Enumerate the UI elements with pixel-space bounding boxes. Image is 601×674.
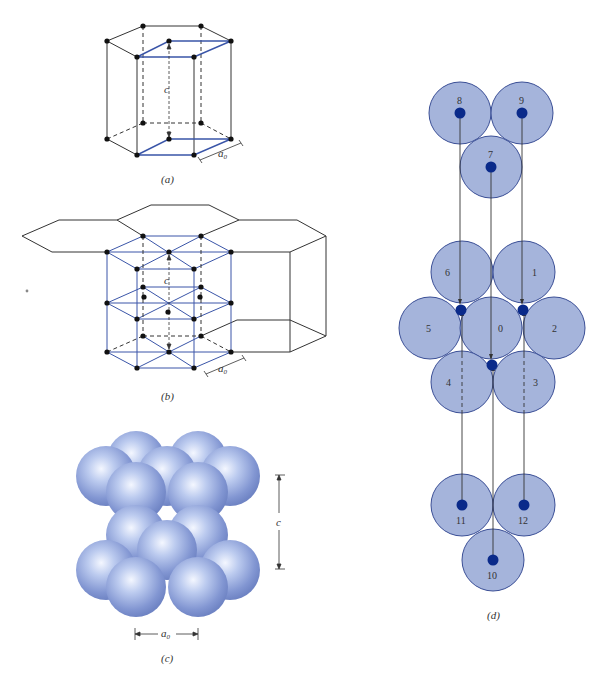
atom-label-7: 7 bbox=[488, 149, 493, 160]
label-c: c bbox=[164, 274, 169, 286]
panel-d-stacking-layers: 8 9 7 6 1 5 0 2 4 3 11 12 10 (d) bbox=[390, 0, 601, 674]
sphere-model-drawing: c a0 bbox=[40, 410, 340, 674]
atom-label-1: 1 bbox=[532, 267, 537, 278]
atom-label-12: 12 bbox=[518, 515, 528, 526]
atom-6 bbox=[431, 241, 493, 303]
label-c: c bbox=[164, 83, 169, 95]
atom-label-9: 9 bbox=[519, 95, 524, 106]
atom-label-2: 2 bbox=[552, 323, 557, 334]
caption-d: (d) bbox=[487, 609, 500, 621]
panel-c-sphere-model: c a0 (c) bbox=[40, 410, 340, 674]
panel-b-hcp-lattice: c a0 (b) bbox=[0, 190, 380, 420]
atom-label-11: 11 bbox=[456, 515, 466, 526]
atom-label-6: 6 bbox=[445, 267, 450, 278]
atom-label-8: 8 bbox=[457, 95, 462, 106]
atom-1 bbox=[493, 241, 555, 303]
atom-label-5: 5 bbox=[426, 323, 431, 334]
label-a0: a0 bbox=[161, 627, 171, 641]
atom-label-0: 0 bbox=[498, 323, 503, 334]
panel-a-hcp-unit-cell: c a0 (a) bbox=[0, 0, 300, 200]
hcp-lattice-drawing: c a0 bbox=[0, 190, 380, 420]
atom-label-10: 10 bbox=[487, 570, 497, 581]
label-a0: a0 bbox=[218, 362, 228, 376]
caption-a: (a) bbox=[161, 173, 174, 185]
caption-c: (c) bbox=[161, 652, 173, 664]
label-c: c bbox=[276, 516, 281, 528]
hcp-unit-cell-drawing: c a0 bbox=[0, 0, 300, 200]
caption-b: (b) bbox=[161, 390, 174, 402]
atom-label-4: 4 bbox=[446, 377, 451, 388]
atom-label-3: 3 bbox=[533, 377, 538, 388]
stacking-layers-drawing: 8 9 7 6 1 5 0 2 4 3 11 12 10 bbox=[390, 0, 601, 674]
